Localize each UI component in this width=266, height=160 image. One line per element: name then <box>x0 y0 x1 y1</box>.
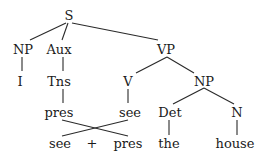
edge-s-np <box>30 23 66 40</box>
node-vp: VP <box>156 42 175 57</box>
edge-np-det <box>173 88 204 104</box>
leaf-the: the <box>158 136 180 151</box>
edge-s-vp <box>72 23 158 40</box>
edge-np-n <box>204 88 234 104</box>
node-np: NP <box>13 42 33 57</box>
node-v: V <box>122 74 133 89</box>
node-see: see <box>119 105 141 120</box>
node-pres: pres <box>45 105 74 120</box>
node-np-object: NP <box>194 74 214 89</box>
node-aux: Aux <box>45 42 72 57</box>
leaf-house: house <box>216 136 255 151</box>
syntax-tree-diagram: S NP Aux VP I Tns V NP pres see Det N se… <box>0 0 266 160</box>
leaf-i: I <box>17 74 22 89</box>
node-s: S <box>65 8 74 23</box>
edge-s-aux <box>62 23 68 40</box>
node-n: N <box>231 105 242 120</box>
edge-vp-v <box>136 57 167 73</box>
node-det: Det <box>158 105 182 120</box>
leaf-pres: pres <box>114 136 143 151</box>
node-tns: Tns <box>47 74 71 89</box>
edge-vp-np <box>167 57 194 73</box>
leaf-plus: + <box>87 136 98 151</box>
leaf-see: see <box>49 136 71 151</box>
